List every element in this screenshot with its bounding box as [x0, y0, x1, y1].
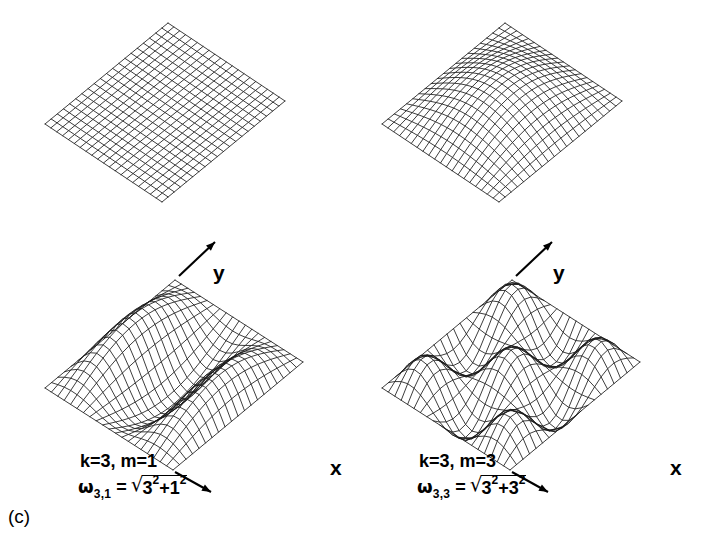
plus-sign: + — [498, 478, 509, 498]
mesh-gridline-v — [51, 284, 181, 392]
mesh-gridline-v — [167, 358, 297, 466]
square-root-expression: √32+12 — [131, 474, 188, 497]
figure-root: y x y x k=3, m=1 ω3,1=√32+12 k=3, m=3 ω3… — [0, 0, 707, 549]
surface-plot-panel-bottom-right — [372, 258, 657, 473]
surface-plot-panel-top-right — [372, 8, 622, 218]
term1-exponent: 2 — [153, 473, 160, 487]
square-root-expression: √32+32 — [470, 474, 527, 497]
mesh-gridline-u — [58, 377, 186, 459]
term2-exponent: 2 — [519, 473, 526, 487]
mesh-gridline-v — [446, 321, 576, 438]
term2-exponent: 2 — [180, 473, 187, 487]
x-axis-arrow-head-icon — [538, 484, 548, 492]
equals-sign: = — [116, 478, 127, 497]
equals-sign: = — [455, 478, 466, 497]
plus-sign: + — [159, 478, 170, 498]
term1-base: 3 — [143, 478, 153, 498]
surface-plot-panel-bottom-left — [35, 258, 320, 473]
mesh-gridline-v — [401, 283, 531, 400]
surface-plot-panel-top-left — [35, 8, 285, 218]
mesh-gridline-v — [45, 280, 175, 388]
caption-bottom-right: k=3, m=3 ω3,3=√32+32 — [417, 452, 526, 497]
mesh-gridline-v — [420, 305, 550, 413]
mesh-gridline-u — [143, 299, 271, 389]
x-axis-arrow-head-icon — [201, 484, 211, 492]
x-axis-label-bottom-right: x — [670, 457, 682, 478]
radicand: 32+12 — [143, 475, 188, 498]
mesh-gridline-v — [141, 342, 271, 450]
term2-base: 1 — [170, 478, 180, 498]
x-axis-label-bottom-left: x — [330, 457, 342, 478]
mesh-gridline-u — [169, 285, 297, 367]
radicand: 32+32 — [482, 475, 527, 498]
mesh-gridline-u — [447, 334, 575, 428]
caption-bottom-left: k=3, m=1 ω3,1=√32+12 — [78, 452, 187, 497]
mesh-surface-top-left — [35, 8, 285, 218]
mesh-surface-top-right — [372, 8, 622, 218]
mesh-gridline-u — [493, 33, 610, 111]
omega-symbol: ω — [417, 478, 433, 497]
term1-exponent: 2 — [492, 473, 499, 487]
frequency-formula-bottom-right: ω3,3=√32+32 — [417, 474, 526, 497]
mode-label-bottom-right: k=3, m=3 — [419, 452, 526, 471]
mesh-gridline-u — [425, 89, 542, 167]
mesh-surface-bottom-right — [372, 258, 657, 473]
mesh-gridline-v — [499, 101, 622, 202]
y-axis-label-bottom-right: y — [553, 262, 565, 283]
frequency-formula-bottom-left: ω3,1=√32+12 — [78, 474, 187, 497]
mesh-gridline-v — [173, 362, 303, 470]
figure-letter-label: (c) — [8, 506, 30, 528]
mesh-gridline-v — [464, 78, 587, 179]
y-axis-label-bottom-left: y — [213, 262, 225, 283]
term1-base: 3 — [482, 478, 492, 498]
mesh-gridline-u — [413, 99, 530, 177]
mesh-gridline-v — [388, 284, 518, 392]
omega-subscript: 3,1 — [94, 488, 112, 501]
term2-base: 3 — [509, 478, 519, 498]
mesh-gridline-u — [467, 318, 595, 400]
omega-symbol: ω — [78, 478, 94, 497]
mesh-gridline-u — [499, 283, 627, 373]
mesh-gridline-v — [395, 283, 525, 397]
mesh-gridline-v — [491, 341, 621, 458]
mode-label-bottom-left: k=3, m=1 — [80, 452, 187, 471]
mesh-surface-bottom-left — [35, 258, 320, 473]
mesh-gridline-u — [407, 104, 524, 182]
mesh-gridline-v — [504, 358, 634, 466]
omega-subscript: 3,3 — [433, 488, 451, 501]
mesh-gridline-u — [408, 355, 536, 448]
mesh-gridline-v — [493, 97, 616, 198]
